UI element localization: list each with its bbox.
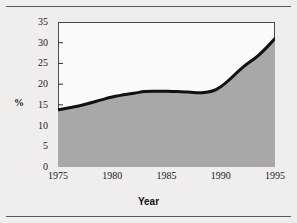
- y-tick-label: 5: [43, 141, 48, 151]
- plot-area: [58, 22, 275, 167]
- y-tick-label: 10: [38, 121, 48, 131]
- x-axis-title: Year: [0, 196, 297, 207]
- x-tick-label: 1975: [48, 170, 68, 181]
- x-tick-label: 1990: [211, 170, 231, 181]
- y-tick-label: 35: [38, 17, 48, 27]
- y-tick-label: 20: [38, 79, 48, 89]
- x-tick-label: 1985: [157, 170, 177, 181]
- x-tick-label: 1980: [102, 170, 122, 181]
- y-tick-label: 15: [38, 100, 48, 110]
- x-tick-label: 1995: [265, 170, 285, 181]
- y-axis-tick-labels: 05101520253035: [0, 0, 56, 223]
- y-tick-label: 25: [38, 58, 48, 68]
- figure-panel: 05101520253035 % 19751980198519901995 Ye…: [0, 0, 297, 223]
- x-axis-tick-labels: 19751980198519901995: [0, 170, 297, 184]
- y-tick-label: 30: [38, 38, 48, 48]
- area-chart-svg: [58, 22, 275, 167]
- y-axis-title: %: [14, 98, 24, 108]
